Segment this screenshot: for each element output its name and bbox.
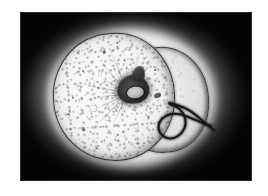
photomicrograph-frame	[20, 12, 252, 181]
inclusion	[116, 41, 118, 43]
inclusion	[97, 87, 99, 89]
vesicle	[134, 124, 138, 128]
inclusion	[137, 142, 139, 144]
page-root	[0, 0, 268, 196]
inclusion	[123, 59, 125, 61]
vesicle	[98, 72, 101, 75]
vesicle	[105, 116, 109, 120]
inclusion	[95, 147, 97, 149]
inclusion	[154, 69, 156, 71]
inclusion	[103, 50, 106, 53]
inclusion	[82, 128, 85, 131]
inclusion	[82, 70, 84, 72]
inclusion	[117, 133, 119, 135]
specimen	[53, 31, 209, 165]
vesicle	[77, 86, 80, 89]
inclusion	[67, 113, 69, 115]
inclusion	[147, 115, 149, 117]
vesicle	[91, 105, 97, 111]
